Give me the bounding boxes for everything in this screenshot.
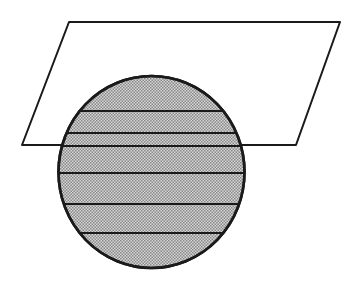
- geometry-figure: [0, 0, 356, 282]
- figure-canvas: [0, 0, 356, 282]
